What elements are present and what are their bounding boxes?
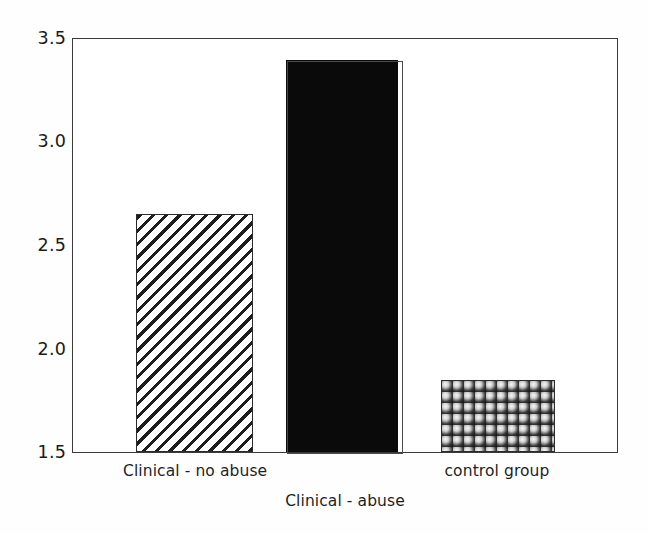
x-label-clinical-no-abuse: Clinical - no abuse — [123, 464, 265, 480]
y-tick-label-3.5: 3.5 — [8, 30, 66, 48]
bar-clinical-no-abuse — [136, 214, 253, 452]
bar-control-group — [441, 380, 555, 452]
x-label-control-group: control group — [425, 464, 569, 480]
bar-chart: 3.5 3.0 2.5 2.0 1.5 Clinical - no abuse … — [0, 0, 649, 534]
y-tick-label-2.5: 2.5 — [8, 237, 66, 255]
plot-area — [72, 38, 618, 453]
x-label-clinical-abuse: Clinical - abuse — [275, 494, 415, 510]
y-axis-tick-labels: 3.5 3.0 2.5 2.0 1.5 — [0, 0, 66, 534]
y-tick-label-2.0: 2.0 — [8, 341, 66, 359]
y-tick-label-3.0: 3.0 — [8, 133, 66, 151]
bar-clinical-abuse — [286, 60, 398, 452]
y-tick-label-1.5: 1.5 — [8, 444, 66, 462]
